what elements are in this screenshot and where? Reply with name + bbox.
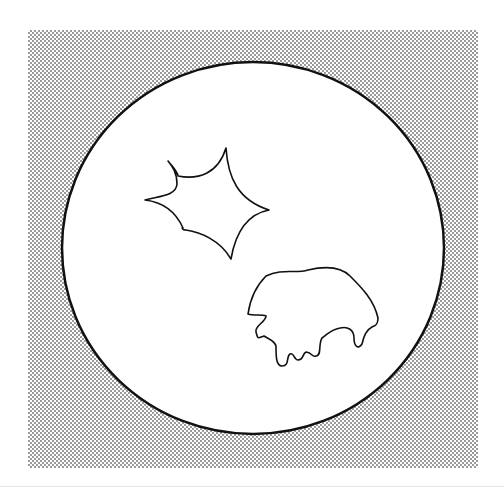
circle-outline (62, 62, 444, 434)
bottom-rule (0, 486, 504, 487)
circle-with-spots-diagram (0, 0, 504, 490)
